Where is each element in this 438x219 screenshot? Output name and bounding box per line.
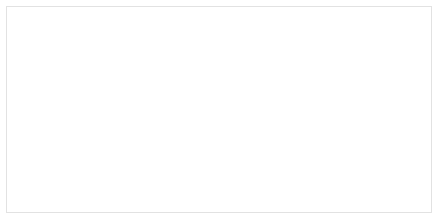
figure-frame	[6, 6, 432, 213]
chart-root: 0.00.20.40.60.81.0020406080 p = 0.005 Me…	[0, 0, 438, 219]
